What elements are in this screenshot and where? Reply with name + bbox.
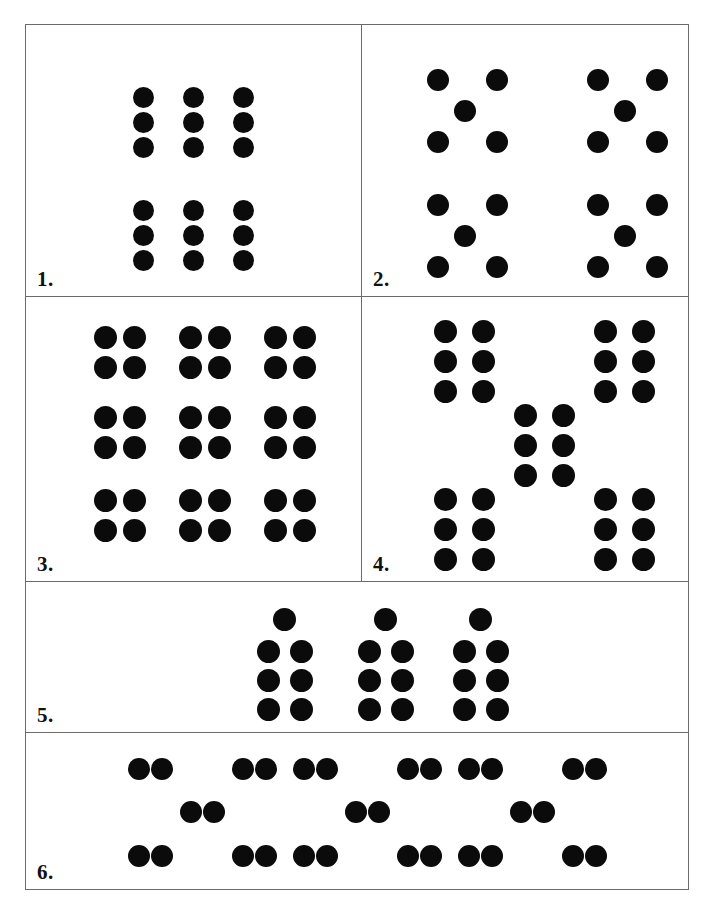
panel-6-label: 6. (37, 862, 54, 883)
panel-4-artwork (362, 297, 688, 581)
panel-1: 1. (26, 25, 362, 297)
panel-1-artwork (26, 25, 361, 296)
dot (264, 489, 287, 512)
dot (133, 200, 154, 221)
panel-5-artwork (26, 582, 688, 732)
dot-group-3x3-2 (26, 25, 361, 296)
dot (133, 250, 154, 271)
dot (585, 758, 607, 780)
dot-group-pairs-3 (26, 733, 688, 889)
dot (183, 225, 204, 246)
dot (646, 194, 668, 216)
panel-2-label: 2. (373, 269, 390, 290)
dot (133, 225, 154, 246)
dot (594, 548, 617, 571)
panel-5: 5. (26, 582, 688, 733)
dot (481, 758, 503, 780)
dot (533, 801, 555, 823)
dot (614, 225, 636, 247)
panel-2: 2. (362, 25, 688, 297)
dot (510, 801, 532, 823)
dot (646, 256, 668, 278)
dot (233, 200, 254, 221)
dot (458, 758, 480, 780)
dot (264, 519, 287, 542)
dot (594, 518, 617, 541)
dot (486, 669, 509, 692)
dot (233, 250, 254, 271)
panel-6: 6. (26, 733, 688, 889)
panel-4: 4. (362, 297, 688, 582)
dot (632, 548, 655, 571)
worksheet-frame: 1. 2. 3. 4. 5. 6. (25, 24, 689, 890)
panel-3: 3. (26, 297, 362, 582)
dot (233, 225, 254, 246)
panel-5-label: 5. (37, 705, 54, 726)
dot (585, 845, 607, 867)
dot (453, 698, 476, 721)
dot (632, 488, 655, 511)
dot (293, 489, 316, 512)
panel-3-artwork (26, 297, 361, 581)
dot (453, 669, 476, 692)
panel-3-label: 3. (37, 554, 54, 575)
dot (594, 488, 617, 511)
dot (293, 519, 316, 542)
panel-4-label: 4. (373, 554, 390, 575)
dot-group-seven-3 (26, 582, 688, 732)
dot (458, 845, 480, 867)
dot (453, 640, 476, 663)
panel-6-artwork (26, 733, 688, 889)
dot (183, 200, 204, 221)
dot-group-five-4 (362, 25, 688, 296)
dot (486, 698, 509, 721)
panel-2-artwork (362, 25, 688, 296)
dot (486, 640, 509, 663)
dot (481, 845, 503, 867)
dot (469, 608, 492, 631)
dot-group-2x2-9 (26, 297, 361, 581)
dot (183, 250, 204, 271)
dot (587, 256, 609, 278)
dot (632, 518, 655, 541)
dot (562, 845, 584, 867)
dot-group-2x3-5 (362, 297, 688, 581)
panel-1-label: 1. (37, 269, 54, 290)
dot (587, 194, 609, 216)
dot (562, 758, 584, 780)
